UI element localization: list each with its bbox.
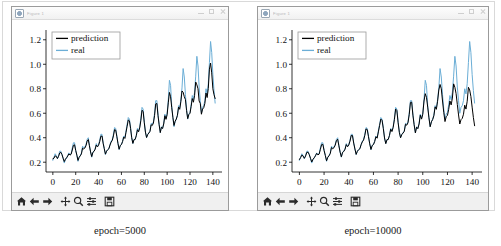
svg-text:100: 100 (160, 177, 174, 187)
svg-text:140: 140 (465, 177, 479, 187)
svg-text:0.8: 0.8 (30, 84, 42, 94)
page-root: Figure 1 0.20.40.60.81.01.20204060801001… (0, 0, 501, 246)
forward-arrow-icon[interactable] (41, 196, 53, 208)
forward-arrow-icon[interactable] (287, 196, 299, 208)
pan-move-icon[interactable] (59, 196, 71, 208)
close-icon[interactable] (480, 9, 486, 15)
svg-text:1.2: 1.2 (30, 35, 42, 45)
caption-right: epoch=10000 (257, 225, 489, 236)
svg-text:0.4: 0.4 (276, 133, 288, 143)
figure-window-right[interactable]: Figure 1 0.20.40.60.81.01.20204060801001… (257, 6, 489, 211)
svg-text:60: 60 (117, 177, 127, 187)
svg-text:1.2: 1.2 (276, 35, 288, 45)
toolbar-separator (300, 196, 304, 208)
maximize-icon[interactable] (469, 9, 475, 15)
svg-text:real: real (317, 45, 331, 55)
svg-text:0.2: 0.2 (30, 158, 42, 168)
navigation-toolbar-left[interactable] (12, 192, 228, 210)
pan-move-icon[interactable] (305, 196, 317, 208)
home-icon[interactable] (261, 196, 273, 208)
maximize-icon[interactable] (209, 9, 215, 15)
configure-subplots-icon[interactable] (331, 196, 343, 208)
save-disk-icon[interactable] (103, 196, 115, 208)
matplotlib-figure-icon (15, 9, 24, 18)
back-arrow-icon[interactable] (28, 196, 40, 208)
svg-text:20: 20 (319, 177, 329, 187)
svg-text:100: 100 (416, 177, 430, 187)
svg-text:0.2: 0.2 (276, 158, 288, 168)
back-arrow-icon[interactable] (274, 196, 286, 208)
svg-text:0.8: 0.8 (276, 84, 288, 94)
svg-text:0: 0 (297, 177, 302, 187)
svg-text:40: 40 (94, 177, 104, 187)
svg-text:prediction: prediction (317, 33, 355, 43)
window-controls-left[interactable] (198, 9, 226, 15)
navigation-toolbar-right[interactable] (258, 192, 488, 210)
titlebar-left[interactable]: Figure 1 (12, 7, 228, 20)
svg-text:real: real (71, 45, 85, 55)
toolbar-separator (54, 196, 58, 208)
svg-text:140: 140 (206, 177, 220, 187)
minimize-icon[interactable] (198, 9, 204, 15)
minimize-icon[interactable] (458, 9, 464, 15)
matplotlib-figure-icon (261, 9, 270, 18)
home-icon[interactable] (15, 196, 27, 208)
svg-text:20: 20 (71, 177, 81, 187)
svg-text:80: 80 (394, 177, 404, 187)
svg-text:0: 0 (51, 177, 56, 187)
svg-text:1.0: 1.0 (276, 60, 288, 70)
window-title: Figure 1 (273, 11, 290, 16)
svg-text:prediction: prediction (71, 33, 109, 43)
svg-text:0.6: 0.6 (30, 109, 42, 119)
save-disk-icon[interactable] (349, 196, 361, 208)
window-title: Figure 1 (27, 11, 44, 16)
svg-text:120: 120 (183, 177, 197, 187)
toolbar-separator (344, 196, 348, 208)
zoom-magnifier-icon[interactable] (318, 196, 330, 208)
toolbar-separator (98, 196, 102, 208)
chart-right: 0.20.40.60.81.01.2020406080100120140pred… (258, 20, 488, 194)
close-icon[interactable] (220, 9, 226, 15)
zoom-magnifier-icon[interactable] (72, 196, 84, 208)
figure-canvas-right[interactable]: 0.20.40.60.81.01.2020406080100120140pred… (258, 20, 488, 194)
window-controls-right[interactable] (458, 9, 486, 15)
chart-left: 0.20.40.60.81.01.2020406080100120140pred… (12, 20, 228, 194)
svg-text:1.0: 1.0 (30, 60, 42, 70)
svg-text:120: 120 (441, 177, 455, 187)
configure-subplots-icon[interactable] (85, 196, 97, 208)
svg-text:80: 80 (140, 177, 150, 187)
svg-text:0.4: 0.4 (30, 133, 42, 143)
caption-left: epoch=5000 (11, 225, 229, 236)
svg-text:60: 60 (369, 177, 379, 187)
figure-canvas-left[interactable]: 0.20.40.60.81.01.2020406080100120140pred… (12, 20, 228, 194)
titlebar-right[interactable]: Figure 1 (258, 7, 488, 20)
svg-text:0.6: 0.6 (276, 109, 288, 119)
svg-text:40: 40 (344, 177, 354, 187)
figure-window-left[interactable]: Figure 1 0.20.40.60.81.01.20204060801001… (11, 6, 229, 211)
